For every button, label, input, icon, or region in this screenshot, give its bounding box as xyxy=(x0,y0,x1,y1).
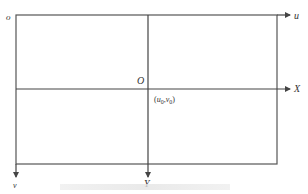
image-origin-label: O xyxy=(137,75,144,86)
x-axis-label: X xyxy=(293,83,301,94)
diagram-canvas: o u v O X Y (u0,v0) xyxy=(0,0,308,194)
u-axis-label: u xyxy=(294,10,299,21)
principal-point-label: (u0,v0) xyxy=(154,95,175,105)
pixel-origin-label: o xyxy=(6,12,11,22)
faint-caption-strip xyxy=(60,184,230,190)
coordinate-diagram: o u v O X Y (u0,v0) xyxy=(0,0,308,194)
v-axis-label: v xyxy=(13,181,17,190)
